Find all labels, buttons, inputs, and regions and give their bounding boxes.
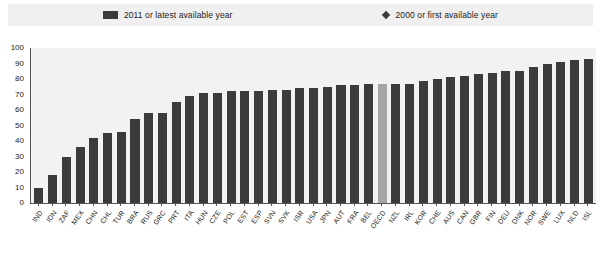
bar-zaf bbox=[62, 157, 71, 204]
bar-slot bbox=[499, 48, 513, 203]
legend-entry-diamond-series: 2000 or first available year bbox=[383, 10, 499, 20]
bar-rus bbox=[144, 113, 153, 203]
x-tick-slot bbox=[539, 203, 553, 207]
legend-entry-bar-series: 2011 or latest available year bbox=[103, 10, 233, 20]
x-label-slot: HUN bbox=[196, 208, 210, 254]
bar-slot bbox=[279, 48, 293, 203]
bar-slot bbox=[197, 48, 211, 203]
x-tick-label-isl: ISL bbox=[581, 209, 593, 222]
x-tick-mark bbox=[409, 203, 410, 206]
bar-chl bbox=[103, 133, 112, 203]
x-tick-label-zaf: ZAF bbox=[58, 209, 71, 224]
x-tick-slot bbox=[429, 203, 443, 207]
x-tick-label-swe: SWE bbox=[537, 209, 552, 226]
x-label-slot: JPN bbox=[319, 208, 333, 254]
x-tick-mark bbox=[203, 203, 204, 206]
x-label-slot: NLD bbox=[567, 208, 581, 254]
x-tick-label-chl: CHL bbox=[98, 209, 112, 225]
x-label-slot: GBR bbox=[471, 208, 485, 254]
bar-slot bbox=[526, 48, 540, 203]
x-tick-mark bbox=[299, 203, 300, 206]
x-tick-label-pol: POL bbox=[222, 209, 236, 225]
x-tick-mark bbox=[532, 203, 533, 206]
x-tick-label-idn: IDN bbox=[45, 209, 58, 223]
x-tick-label-nld: NLD bbox=[565, 209, 579, 225]
bar-nzl bbox=[391, 84, 400, 203]
bar-slot bbox=[320, 48, 334, 203]
bar-slot bbox=[334, 48, 348, 203]
x-label-slot: FRA bbox=[347, 208, 361, 254]
x-tick-slot bbox=[512, 203, 526, 207]
x-label-slot: OECD bbox=[374, 208, 388, 254]
chart-figure: 2011 or latest available year 2000 or fi… bbox=[0, 0, 601, 260]
x-tick-mark bbox=[354, 203, 355, 206]
bar-slot bbox=[389, 48, 403, 203]
x-tick-slot bbox=[127, 203, 141, 207]
x-tick-slot bbox=[443, 203, 457, 207]
bar-ind bbox=[34, 188, 43, 204]
x-label-slot: TUR bbox=[113, 208, 127, 254]
bar-kor bbox=[419, 81, 428, 203]
x-label-slot: ISL bbox=[580, 208, 594, 254]
x-tick-label-mex: MEX bbox=[70, 209, 85, 226]
bar-slot bbox=[46, 48, 60, 203]
x-tick-slot bbox=[196, 203, 210, 207]
legend-label-bar-series: 2011 or latest available year bbox=[124, 10, 233, 20]
x-tick-slot bbox=[86, 203, 100, 207]
bar-deu bbox=[501, 71, 510, 203]
x-label-slot: MEX bbox=[72, 208, 86, 254]
x-tick-label-rus: RUS bbox=[139, 209, 153, 225]
x-tick-mark bbox=[52, 203, 53, 206]
x-tick-label-chn: CHN bbox=[84, 209, 99, 226]
bar-slot bbox=[211, 48, 225, 203]
x-tick-slot bbox=[306, 203, 320, 207]
bar-fin bbox=[488, 73, 497, 203]
diamond-marker-icon bbox=[381, 11, 389, 19]
bar-aut bbox=[336, 85, 345, 203]
x-tick-label-isr: ISR bbox=[292, 209, 305, 223]
x-tick-slot bbox=[319, 203, 333, 207]
bar-slot bbox=[348, 48, 362, 203]
x-tick-mark bbox=[120, 203, 121, 206]
x-tick-mark bbox=[313, 203, 314, 206]
x-tick-mark bbox=[491, 203, 492, 206]
x-label-slot: NZL bbox=[388, 208, 402, 254]
x-tick-label-kor: KOR bbox=[414, 209, 429, 226]
bar-slot bbox=[458, 48, 472, 203]
x-tick-label-ind: IND bbox=[31, 209, 44, 223]
bar-slot bbox=[472, 48, 486, 203]
x-label-slot: IND bbox=[31, 208, 45, 254]
bar-slot bbox=[183, 48, 197, 203]
x-tick-slot bbox=[361, 203, 375, 207]
x-tick-mark bbox=[148, 203, 149, 206]
bar-lux bbox=[556, 62, 565, 203]
bar-slot bbox=[59, 48, 73, 203]
bar-bel bbox=[364, 84, 373, 203]
y-tick-label: 60 bbox=[15, 106, 24, 114]
x-label-slot: SWE bbox=[539, 208, 553, 254]
bar-slot bbox=[581, 48, 595, 203]
x-tick-label-fin: FIN bbox=[484, 209, 496, 222]
bar-slot bbox=[142, 48, 156, 203]
x-label-slot: AUT bbox=[333, 208, 347, 254]
x-tick-label-deu: DEU bbox=[496, 209, 510, 225]
x-tick-label-nzl: NZL bbox=[387, 209, 400, 224]
x-tick-slot bbox=[278, 203, 292, 207]
x-label-slot: BEL bbox=[361, 208, 375, 254]
x-label-slot: DNK bbox=[512, 208, 526, 254]
x-tick-slot bbox=[567, 203, 581, 207]
bar-tur bbox=[117, 132, 126, 203]
x-label-slot: NOR bbox=[525, 208, 539, 254]
bar-slot bbox=[238, 48, 252, 203]
x-label-slot: FIN bbox=[484, 208, 498, 254]
x-tick-slot bbox=[45, 203, 59, 207]
x-label-slot: ISR bbox=[292, 208, 306, 254]
x-tick-mark bbox=[79, 203, 80, 206]
x-label-slot: BRA bbox=[127, 208, 141, 254]
y-tick-label: 20 bbox=[15, 168, 24, 176]
y-tick-label: 70 bbox=[15, 91, 24, 99]
bar-prt bbox=[172, 102, 181, 203]
x-tick-mark bbox=[381, 203, 382, 206]
bar-nld bbox=[570, 60, 579, 203]
bar-oecd bbox=[378, 84, 387, 203]
